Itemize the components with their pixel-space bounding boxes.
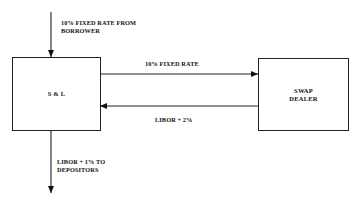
- depositors-flow-label-line2: DEPOSITORS: [57, 166, 105, 174]
- borrower-flow-label-line2: BORROWER: [61, 27, 136, 35]
- libor-plus-2-flow-label: LIBOR + 2%: [155, 116, 192, 124]
- swap-dealer-label-line2: DEALER: [259, 95, 348, 103]
- swap-dealer-box: SWAP DEALER: [258, 58, 349, 131]
- sl-box: S & L: [12, 57, 101, 131]
- borrower-flow-label-line1: 10% FIXED RATE FROM: [61, 19, 136, 27]
- sl-label: S & L: [13, 90, 100, 98]
- fixed-rate-flow-label: 10% FIXED RATE: [145, 60, 199, 68]
- depositors-flow-label: LIBOR + 1% TO DEPOSITORS: [57, 158, 105, 174]
- swap-dealer-label-line1: SWAP: [259, 87, 348, 95]
- borrower-flow-label: 10% FIXED RATE FROM BORROWER: [61, 19, 136, 35]
- depositors-flow-label-line1: LIBOR + 1% TO: [57, 158, 105, 166]
- swap-dealer-label: SWAP DEALER: [259, 87, 348, 103]
